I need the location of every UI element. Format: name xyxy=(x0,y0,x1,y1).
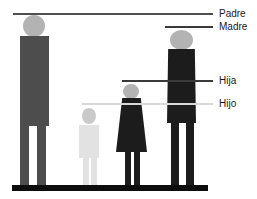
madre-left-leg xyxy=(171,123,179,185)
ground-bar xyxy=(12,185,208,191)
hija-dress xyxy=(116,98,147,152)
madre-head xyxy=(170,30,193,50)
hijo-left-leg xyxy=(83,158,89,185)
hijo-torso xyxy=(79,125,99,158)
hijo-height-line xyxy=(82,103,213,105)
padre-height-line xyxy=(13,13,213,15)
height-comparison-diagram: Padre Madre Hija Hijo xyxy=(0,0,257,199)
hija-right-leg xyxy=(134,152,140,185)
padre-head xyxy=(23,15,45,37)
hijo-label: Hijo xyxy=(219,98,236,110)
madre-label: Madre xyxy=(219,21,247,33)
padre-left-leg xyxy=(20,126,29,185)
madre-torso xyxy=(167,49,196,123)
hijo-right-leg xyxy=(91,158,97,185)
madre-height-line xyxy=(165,26,213,28)
padre-label: Padre xyxy=(219,8,246,20)
madre-right-leg xyxy=(186,123,194,185)
hija-left-leg xyxy=(125,152,131,185)
hija-head xyxy=(123,84,139,99)
padre-torso xyxy=(20,36,49,126)
hija-height-line xyxy=(122,80,213,82)
padre-right-leg xyxy=(37,126,46,185)
hija-label: Hija xyxy=(219,75,236,87)
hijo-head xyxy=(82,108,96,124)
